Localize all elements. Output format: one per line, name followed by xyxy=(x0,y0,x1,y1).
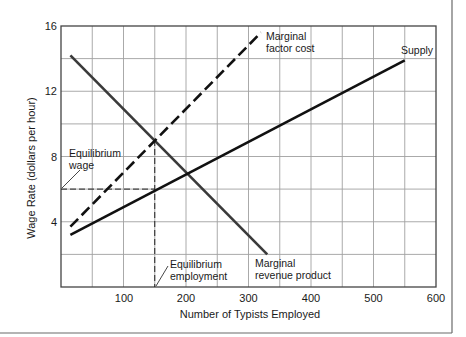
chart: Marginal factor cost Supply Marginal rev… xyxy=(0,0,466,337)
x-tick-600: 600 xyxy=(427,292,445,304)
x-tick-500: 500 xyxy=(364,292,382,304)
x-tick-400: 400 xyxy=(302,292,320,304)
x-tick-100: 100 xyxy=(115,292,133,304)
mrp-label-1: Marginal xyxy=(255,257,295,269)
eq-wage-label-1: Equilibrium xyxy=(69,147,121,159)
y-tick-12: 12 xyxy=(45,85,57,97)
mrp-label-2: revenue product xyxy=(255,269,331,281)
mfc-label-2: factor cost xyxy=(266,42,315,54)
y-tick-8: 8 xyxy=(51,151,57,163)
supply-label: Supply xyxy=(401,44,434,56)
x-tick-300: 300 xyxy=(239,292,257,304)
eq-emp-label-2: employment xyxy=(170,270,227,282)
eq-emp-label-1: Equilibrium xyxy=(170,258,222,270)
mfc-line xyxy=(70,33,261,227)
mfc-label-1: Marginal xyxy=(266,30,306,42)
eq-wage-label-2: wage xyxy=(68,159,94,171)
y-axis-title: Wage Rate (dollars per hour) xyxy=(25,97,37,238)
eq-emp-leader xyxy=(156,266,168,286)
x-tick-200: 200 xyxy=(177,292,195,304)
y-tick-16: 16 xyxy=(45,20,57,32)
y-tick-4: 4 xyxy=(51,216,57,228)
x-axis-title: Number of Typists Employed xyxy=(180,308,320,320)
eq-wage-leader xyxy=(62,170,80,188)
